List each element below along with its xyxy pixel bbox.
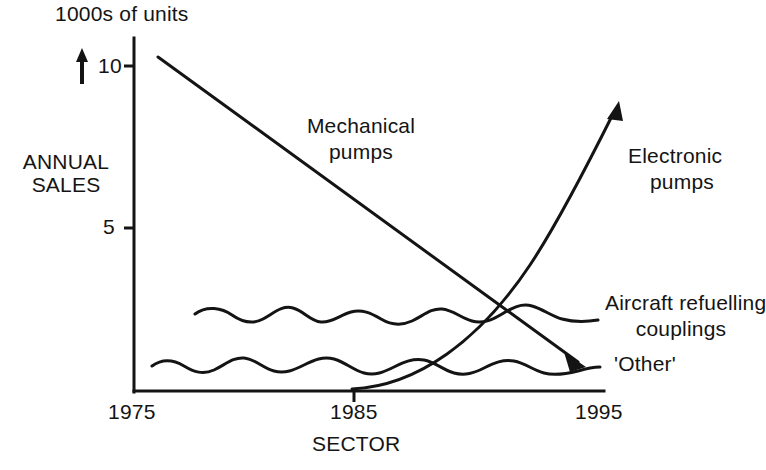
series-line-mechanical-pumps xyxy=(158,57,586,372)
series-label-mechanical-pumps-line1: Mechanical xyxy=(296,113,426,139)
x-tick-label-1975: 1975 xyxy=(108,400,156,424)
series-label-aircraft-refuelling-couplings-line1: Aircraft refuelling xyxy=(605,290,765,316)
series-line-other xyxy=(152,358,600,375)
series-label-electronic-pumps-line2: pumps xyxy=(628,169,736,195)
y-axis-label-line2: SALES xyxy=(14,173,118,196)
series-label-other: 'Other' xyxy=(614,352,676,376)
series-label-aircraft-refuelling-couplings-line2: couplings xyxy=(605,316,757,342)
x-tick-label-1985: 1985 xyxy=(330,400,378,424)
series-label-mechanical-pumps: Mechanical pumps xyxy=(296,113,426,165)
y-axis-label-line1: ANNUAL xyxy=(14,150,118,173)
y-tick-label-5: 5 xyxy=(103,215,115,239)
series-label-electronic-pumps-line1: Electronic xyxy=(628,143,752,169)
up-arrow-icon xyxy=(76,48,88,84)
units-title: 1000s of units xyxy=(55,2,189,26)
x-tick-label-1995: 1995 xyxy=(575,400,623,424)
y-tick-label-10: 10 xyxy=(98,54,122,78)
y-axis-label: ANNUAL SALES xyxy=(14,150,118,196)
x-axis-label: SECTOR xyxy=(312,432,400,456)
series-label-aircraft-refuelling-couplings: Aircraft refuelling couplings xyxy=(605,290,765,342)
series-label-electronic-pumps: Electronic pumps xyxy=(628,143,752,195)
series-label-mechanical-pumps-line2: pumps xyxy=(296,139,426,165)
series-line-aircraft-refuelling-couplings xyxy=(195,305,598,324)
